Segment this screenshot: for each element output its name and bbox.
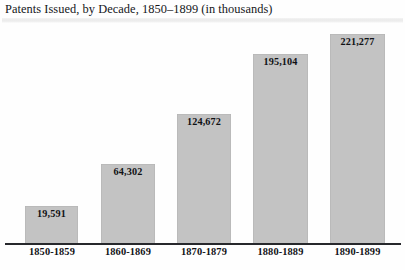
x-axis-label-1870-1879: 1870-1879 bbox=[169, 246, 239, 257]
x-axis-label-1890-1899: 1890-1899 bbox=[322, 246, 393, 257]
plot-area: 19,591 64,302 124,672 195,104 221,277 bbox=[0, 23, 405, 245]
x-axis-line bbox=[5, 243, 401, 245]
bar-value-label-1890-1899: 221,277 bbox=[324, 36, 391, 47]
bar-1860-1869: 64,302 bbox=[101, 164, 155, 245]
bar-value-label-1880-1889: 195,104 bbox=[247, 56, 314, 67]
bar-1890-1899: 221,277 bbox=[330, 34, 385, 245]
x-axis-label-1860-1869: 1860-1869 bbox=[93, 246, 163, 257]
bar-1850-1859: 19,591 bbox=[25, 206, 78, 245]
bar-value-label-1850-1859: 19,591 bbox=[19, 208, 84, 219]
bar-value-label-1860-1869: 64,302 bbox=[95, 166, 161, 177]
bar-1870-1879: 124,672 bbox=[177, 114, 231, 245]
chart-title: Patents Issued, by Decade, 1850–1899 (in… bbox=[5, 1, 401, 17]
bar-1880-1889: 195,104 bbox=[253, 54, 308, 245]
bar-value-label-1870-1879: 124,672 bbox=[171, 116, 237, 127]
x-axis-label-1880-1889: 1880-1889 bbox=[245, 246, 316, 257]
bar-chart-figure: Patents Issued, by Decade, 1850–1899 (in… bbox=[0, 0, 405, 270]
x-axis-label-row: 1850-1859 1860-1869 1870-1879 1880-1889 … bbox=[0, 246, 405, 264]
x-axis-label-1850-1859: 1850-1859 bbox=[17, 246, 87, 257]
